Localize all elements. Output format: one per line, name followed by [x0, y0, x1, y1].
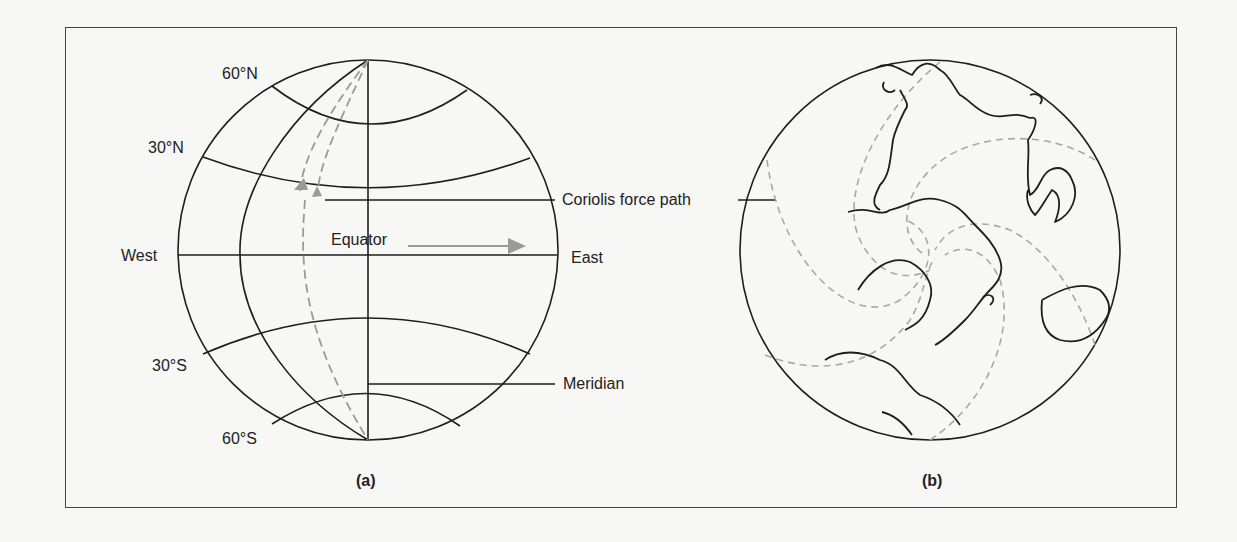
continent-south-america [825, 353, 960, 426]
continent-south-tip [882, 412, 912, 435]
spiral-path-1 [767, 160, 929, 307]
caption-b: (b) [922, 473, 942, 489]
label-east: East [571, 250, 603, 266]
coriolis-path-north-right [318, 60, 368, 190]
coriolis-paths-b [765, 62, 1095, 440]
island-japan [1030, 94, 1042, 104]
diagram-canvas [0, 0, 1237, 542]
east-arrow [408, 238, 526, 254]
spiral-path-5 [930, 249, 1004, 440]
label-meridian: Meridian [563, 376, 624, 392]
continent-arabia [858, 260, 931, 330]
globe-b [740, 60, 1120, 440]
label-60n: 60°N [222, 66, 258, 82]
island-madagascar [983, 295, 993, 305]
island-uk [883, 82, 895, 92]
continent-eurasia [876, 64, 1075, 222]
arrow-right-icon [508, 238, 526, 254]
arrowhead-west-icon [294, 178, 308, 190]
lat-30n-arc [203, 157, 530, 188]
label-coriolis-force-path: Coriolis force path [562, 192, 691, 208]
spiral-path-3 [907, 139, 1095, 255]
lat-60n-arc [272, 86, 467, 124]
coriolis-arrowheads [294, 178, 322, 197]
label-30s: 30°S [152, 358, 187, 374]
globe-a [178, 60, 775, 440]
coriolis-paths-a [300, 60, 368, 440]
continent-africa [848, 199, 1001, 345]
label-60s: 60°S [222, 431, 257, 447]
lat-30s-arc [203, 318, 530, 354]
continent-europe-west [874, 90, 907, 210]
globe-b-outline [740, 60, 1120, 440]
lat-60s-arc [272, 393, 460, 426]
caption-a: (a) [356, 473, 376, 489]
label-equator: Equator [331, 232, 387, 248]
label-30n: 30°N [148, 140, 184, 156]
label-west: West [121, 248, 157, 264]
spiral-path-6 [765, 258, 935, 366]
continent-australia [1042, 286, 1110, 341]
arrowhead-north-icon [312, 186, 322, 197]
